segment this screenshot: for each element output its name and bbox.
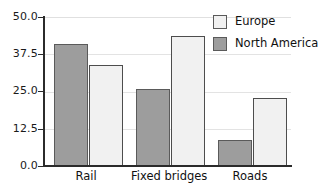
legend-label-europe: Europe: [235, 15, 275, 28]
legend: Europe North America: [213, 12, 318, 56]
legend-item-north-america: North America: [213, 34, 318, 53]
bar-roads-europe: [253, 98, 287, 166]
y-tick-label-37_5: 37.5: [2, 48, 38, 59]
bar-roads-north-america: [218, 140, 252, 166]
legend-item-europe: Europe: [213, 12, 318, 31]
y-tick-label-50: 50.0: [2, 11, 38, 22]
bar-chart: 50.0 37.5 25.0 12.5 0.0: [0, 0, 319, 192]
bar-rail-europe: [89, 65, 123, 166]
legend-label-north-america: North America: [235, 37, 318, 50]
legend-swatch-north-america-icon: [213, 37, 227, 51]
legend-swatch-europe-icon: [213, 15, 227, 29]
y-axis-line: [43, 16, 45, 167]
bar-group-fixed-bridges: [126, 17, 208, 166]
x-tick-label-roads: Roads: [213, 170, 287, 183]
x-tick-label-fixed-bridges: Fixed bridges: [131, 170, 205, 183]
bar-fixed-bridges-europe: [171, 36, 205, 166]
y-tick-label-0: 0.0: [2, 160, 38, 171]
bar-fixed-bridges-north-america: [136, 89, 170, 166]
x-tick-label-rail: Rail: [49, 170, 123, 183]
y-tick-label-12_5: 12.5: [2, 123, 38, 134]
bar-rail-north-america: [54, 44, 88, 166]
bar-group-rail: [44, 17, 126, 166]
y-tick-label-25: 25.0: [2, 85, 38, 96]
x-axis-line: [43, 165, 292, 167]
